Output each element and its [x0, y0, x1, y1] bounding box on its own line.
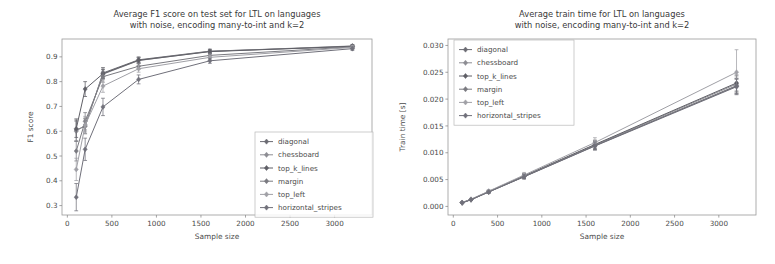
y-tick-label: 0.015 [422, 122, 443, 131]
legend: diagonalchessboardtop_k_linesmargintop_l… [255, 132, 373, 217]
y-tick-label: 0.020 [422, 95, 443, 104]
y-tick-label: 0.000 [422, 202, 443, 211]
y-axis-label: F1 score [26, 111, 35, 143]
x-tick-label: 500 [490, 219, 504, 228]
x-tick-label: 2500 [281, 219, 300, 228]
legend-label-top_k_lines[interactable]: top_k_lines [477, 72, 517, 81]
data-point-marker [734, 70, 738, 75]
figure-container: Average F1 score on test set for LTL on … [0, 0, 775, 264]
data-point-marker [101, 84, 105, 89]
x-tick-label: 0 [451, 219, 456, 228]
chart-title-line1: Average F1 score on test set for LTL on … [114, 9, 321, 19]
legend-label-margin[interactable]: margin [278, 177, 303, 186]
chart-title-line1: Average train time for LTL on languages [519, 9, 685, 19]
panel-f1-score: Average F1 score on test set for LTL on … [0, 0, 388, 264]
x-axis-label: Sample size [579, 232, 624, 241]
data-point-marker [74, 149, 78, 154]
y-tick-label: 0.3 [46, 201, 57, 210]
y-tick-label: 0.030 [422, 41, 443, 50]
legend-label-horizontal_stripes[interactable]: horizontal_stripes [477, 111, 541, 120]
chart-title-line2: with noise, encoding many-to-int and k=2 [130, 20, 305, 30]
series-line [76, 46, 352, 131]
x-tick-label: 3000 [325, 219, 344, 228]
y-axis-label: Train time [s] [398, 103, 407, 153]
legend-label-top_left[interactable]: top_left [477, 98, 504, 107]
y-tick-label: 0.9 [46, 52, 58, 61]
x-axis-label: Sample size [195, 232, 240, 241]
x-tick-label: 500 [105, 219, 119, 228]
y-tick-label: 0.6 [46, 127, 58, 136]
y-tick-label: 0.5 [46, 152, 57, 161]
data-point-marker [74, 167, 78, 172]
data-point-marker [208, 58, 212, 63]
legend-label-diagonal[interactable]: diagonal [477, 45, 508, 54]
series-top_k_lines [74, 44, 354, 138]
data-point-marker [83, 147, 87, 152]
legend-label-horizontal_stripes[interactable]: horizontal_stripes [278, 203, 342, 212]
y-tick-label: 0.4 [46, 176, 58, 185]
y-tick-label: 0.8 [46, 77, 58, 86]
legend-label-diagonal[interactable]: diagonal [278, 137, 309, 146]
series-line [76, 47, 352, 130]
y-tick-label: 0.010 [422, 148, 443, 157]
x-tick-label: 0 [65, 219, 70, 228]
x-tick-label: 1000 [147, 219, 166, 228]
legend: diagonalchessboardtop_k_linesmargintop_l… [454, 40, 574, 125]
f1-score-chart: Average F1 score on test set for LTL on … [0, 0, 388, 264]
x-tick-label: 3000 [709, 219, 728, 228]
data-point-marker [137, 58, 141, 63]
x-tick-label: 2000 [236, 219, 255, 228]
chart-title-line2: with noise, encoding many-to-int and k=2 [514, 20, 689, 30]
y-tick-label: 0.7 [46, 102, 57, 111]
legend-label-top_k_lines[interactable]: top_k_lines [278, 164, 318, 173]
legend-label-top_left[interactable]: top_left [278, 190, 305, 199]
data-point-marker [460, 200, 464, 205]
legend-label-chessboard[interactable]: chessboard [278, 150, 319, 159]
series-line [76, 46, 352, 129]
legend-label-margin[interactable]: margin [477, 85, 502, 94]
y-tick-label: 0.025 [422, 68, 443, 77]
train-time-chart: Average train time for LTL on languagesw… [388, 0, 775, 264]
x-tick-label: 2500 [665, 219, 684, 228]
x-tick-label: 1500 [192, 219, 211, 228]
x-tick-label: 1500 [576, 219, 595, 228]
y-tick-label: 0.005 [422, 175, 443, 184]
x-tick-label: 1000 [532, 219, 551, 228]
series-diagonal [74, 44, 354, 141]
x-tick-label: 2000 [621, 219, 640, 228]
data-point-marker [74, 195, 78, 200]
panel-train-time: Average train time for LTL on languagesw… [388, 0, 775, 264]
series-chessboard [74, 43, 354, 141]
legend-label-chessboard[interactable]: chessboard [477, 58, 518, 67]
